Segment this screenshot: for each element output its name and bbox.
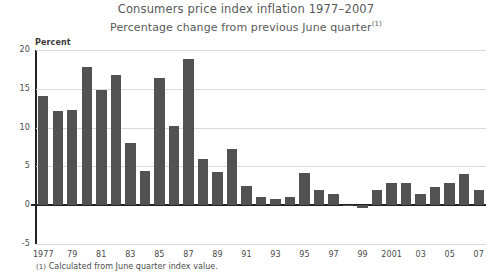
y-axis-tick-label: -5 — [2, 239, 30, 248]
bar — [125, 143, 135, 205]
bar — [96, 90, 106, 206]
bar — [270, 199, 280, 205]
bar — [67, 110, 77, 205]
y-axis-tick-label: 5 — [2, 161, 30, 170]
bar — [474, 190, 484, 206]
bar — [82, 67, 92, 205]
chart-figure: Consumers price index inflation 1977–200… — [0, 0, 492, 276]
bar — [459, 174, 469, 205]
y-axis-tick-label: 20 — [2, 45, 30, 54]
bar — [212, 172, 222, 205]
y-axis-tick-label: 15 — [2, 84, 30, 93]
x-axis-tick-label: 07 — [459, 250, 492, 259]
chart-title: Consumers price index inflation 1977–200… — [0, 2, 492, 17]
chart-subtitle: Percentage change from previous June qua… — [0, 17, 492, 35]
y-axis-tick-label: 10 — [2, 123, 30, 132]
bar — [372, 190, 382, 206]
y-axis-tick-label: 0 — [2, 200, 30, 209]
bar — [314, 190, 324, 206]
bar — [154, 78, 164, 205]
plot-area: 20151050-5197779818385878991939597992001… — [36, 50, 486, 244]
bar — [430, 187, 440, 206]
chart-title-block: Consumers price index inflation 1977–200… — [0, 2, 492, 35]
bar — [444, 183, 454, 205]
bar — [357, 205, 367, 208]
gridline--5 — [36, 244, 486, 245]
bar — [140, 171, 150, 205]
footnote-marker: (1) — [36, 263, 46, 271]
y-axis-unit-label: Percent — [35, 38, 71, 47]
bar — [227, 149, 237, 206]
bar — [241, 186, 251, 205]
bar — [111, 75, 121, 205]
chart-subtitle-text: Percentage change from previous June qua… — [110, 21, 372, 34]
bar — [38, 96, 48, 205]
bar — [198, 159, 208, 206]
chart-subtitle-footnote-marker: (1) — [372, 20, 382, 28]
bar — [53, 111, 63, 206]
chart-footnote: (1) Calculated from June quarter index v… — [36, 262, 218, 271]
bar — [401, 183, 411, 205]
bar — [256, 197, 266, 205]
bar — [343, 205, 353, 206]
bar — [299, 173, 309, 206]
bar — [328, 194, 338, 205]
y-axis-line — [35, 50, 37, 244]
gridline-20 — [36, 50, 486, 51]
bar — [169, 126, 179, 205]
bar — [183, 59, 193, 205]
footnote-text: Calculated from June quarter index value… — [49, 262, 218, 271]
bar — [415, 194, 425, 206]
bar — [285, 197, 295, 206]
bar — [386, 183, 396, 206]
